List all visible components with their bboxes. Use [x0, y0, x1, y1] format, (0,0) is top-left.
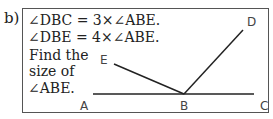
angle-diagram — [0, 0, 273, 119]
point-c-label: C — [260, 99, 268, 113]
point-a-label: A — [80, 99, 88, 113]
ray-be — [114, 64, 184, 94]
ray-bd — [184, 30, 243, 94]
point-d-label: D — [247, 15, 256, 29]
point-e-label: E — [100, 53, 108, 67]
point-b-label: B — [180, 99, 188, 113]
